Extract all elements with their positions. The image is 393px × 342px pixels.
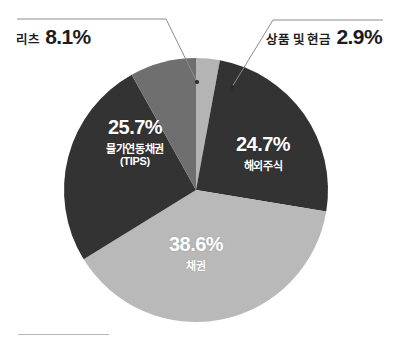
pie-chart-figure: 리츠 8.1% 상품 및 현금 2.9% 25.7% 물가연동채권 (TIPS)… [0, 0, 393, 342]
callout-category-commodity-cash: 상품 및 현금 [266, 34, 330, 47]
slice-label-bonds: 38.6% 채권 [169, 234, 223, 272]
callout-label-reits: 리츠 8.1% [16, 26, 91, 47]
slice-value-tips: 25.7% [106, 117, 164, 139]
slice-value-bonds: 38.6% [169, 234, 223, 256]
slice-label-tips: 25.7% 물가연동채권 (TIPS) [106, 117, 164, 168]
callout-value-commodity-cash: 2.9% [337, 26, 382, 47]
callout-label-commodity-cash: 상품 및 현금 2.9% [266, 26, 382, 47]
pie-chart-svg [0, 0, 393, 342]
slice-category-tips-main: 물가연동채권 [106, 143, 164, 155]
leader-dot-reits [195, 80, 199, 84]
slice-label-global-equity: 24.7% 해외주식 [236, 134, 290, 172]
leader-dot-commodity-cash [230, 85, 234, 89]
callout-value-reits: 8.1% [45, 26, 90, 47]
callout-category-reits: 리츠 [16, 34, 39, 47]
footer-rule [18, 334, 109, 335]
slice-category-tips: 물가연동채권 (TIPS) [106, 144, 164, 169]
slice-category-global-equity: 해외주식 [236, 160, 290, 172]
slice-category-bonds: 채권 [169, 260, 223, 272]
slice-value-global-equity: 24.7% [236, 134, 290, 156]
slice-category-tips-sub: (TIPS) [106, 157, 164, 169]
